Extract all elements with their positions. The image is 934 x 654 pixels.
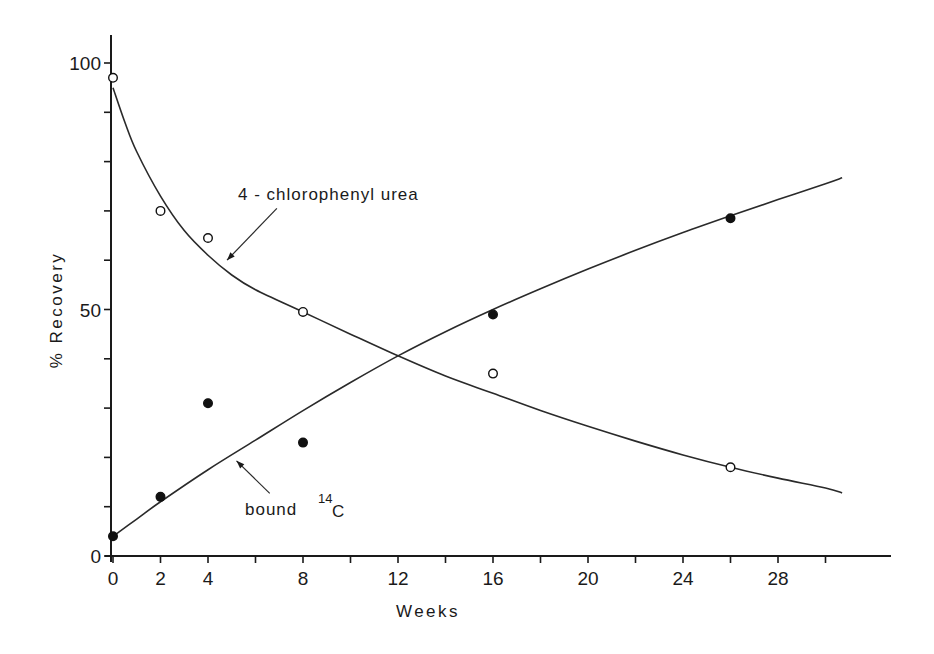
x-tick-label: 28 — [767, 568, 788, 589]
y-axis-title: % Recovery — [47, 252, 66, 369]
filled-circle-marker — [299, 438, 308, 447]
x-tick-label: 20 — [577, 568, 598, 589]
data-points — [109, 73, 735, 540]
open-circle-marker — [489, 369, 498, 378]
x-tick-label: 16 — [482, 568, 503, 589]
open-circle-marker — [109, 73, 118, 82]
arrow-4-chlorophenyl-urea — [227, 208, 277, 260]
chart: 05010002481216202428 4 - chlorophenyl ur… — [0, 0, 934, 654]
open-circle-marker — [204, 234, 213, 243]
x-tick-label: 4 — [203, 568, 214, 589]
x-axis-title: Weeks — [396, 602, 460, 621]
y-tick-label: 50 — [80, 300, 101, 321]
curve-bound-14c — [113, 178, 842, 536]
filled-circle-marker — [156, 493, 165, 502]
filled-circle-marker — [726, 214, 735, 223]
annotation-bound-suffix: C — [332, 502, 345, 521]
open-circle-marker — [299, 308, 308, 317]
curve-4-chlorophenyl-urea — [113, 88, 842, 493]
filled-circle-marker — [204, 399, 213, 408]
y-tick-label: 0 — [90, 546, 101, 567]
x-tick-label: 24 — [672, 568, 694, 589]
x-tick-label: 2 — [155, 568, 166, 589]
annotation-bound: bound — [245, 500, 297, 519]
annotation-bound-superscript: 14 — [318, 491, 332, 506]
filled-circle-marker — [109, 532, 118, 541]
open-circle-marker — [156, 207, 165, 216]
chart-canvas: 05010002481216202428 4 - chlorophenyl ur… — [0, 0, 934, 654]
filled-circle-marker — [489, 310, 498, 319]
annotation-4-chlorophenyl-urea: 4 - chlorophenyl urea — [238, 185, 419, 204]
x-tick-label: 12 — [387, 568, 408, 589]
x-tick-label: 0 — [108, 568, 119, 589]
open-circle-marker — [726, 463, 735, 472]
axes: 05010002481216202428 — [69, 35, 891, 589]
x-tick-label: 8 — [298, 568, 309, 589]
y-tick-label: 100 — [69, 53, 101, 74]
